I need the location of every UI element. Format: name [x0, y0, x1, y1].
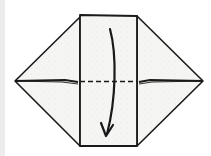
origami-diagram — [0, 0, 211, 156]
